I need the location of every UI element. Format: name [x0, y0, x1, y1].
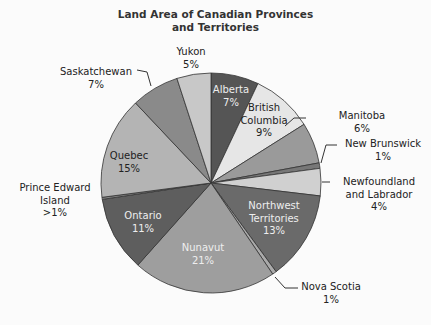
label-name-2: Island: [19, 195, 90, 208]
label-pct: 21%: [182, 255, 224, 268]
leader-saskatchewan: [137, 70, 151, 86]
leader-new-brunswick: [321, 145, 337, 163]
label-name: Northwest: [248, 200, 299, 213]
label-name: Quebec: [110, 150, 148, 163]
label-pct: 11%: [124, 223, 161, 236]
label-name: Prince Edward: [19, 182, 90, 195]
label-name: Manitoba: [339, 110, 385, 123]
label-pct: 9%: [240, 127, 287, 140]
label-prince-edward-island: Prince Edward Island >1%: [19, 182, 90, 220]
label-pct: 13%: [248, 225, 299, 238]
label-pct: 1%: [345, 151, 421, 164]
label-pct: 5%: [176, 59, 205, 72]
leader-nova-scotia: [275, 277, 298, 288]
label-name: Nunavut: [182, 242, 224, 255]
label-ontario: Ontario 11%: [124, 210, 161, 235]
label-name: Alberta: [213, 84, 249, 97]
label-yukon: Yukon 5%: [176, 46, 205, 71]
label-name-2: and Labrador: [343, 189, 415, 202]
label-name: New Brunswick: [345, 138, 421, 151]
label-pct: 7%: [60, 79, 132, 92]
label-northwest-territories: Northwest Territories 13%: [248, 200, 299, 238]
label-name: Newfoundland: [343, 176, 415, 189]
label-name: Yukon: [176, 46, 205, 59]
label-british-columbia: British Columbia 9%: [240, 102, 287, 140]
label-manitoba: Manitoba 6%: [339, 110, 385, 135]
label-pct: 1%: [301, 294, 361, 307]
label-nova-scotia: Nova Scotia 1%: [301, 281, 361, 306]
label-name-2: Territories: [248, 213, 299, 226]
label-name: British: [240, 102, 287, 115]
label-pct: 4%: [343, 201, 415, 214]
label-pct: >1%: [19, 207, 90, 220]
label-name-2: Columbia: [240, 115, 287, 128]
label-nunavut: Nunavut 21%: [182, 242, 224, 267]
label-name: Ontario: [124, 210, 161, 223]
label-saskatchewan: Saskatchewan 7%: [60, 66, 132, 91]
label-pct: 6%: [339, 123, 385, 136]
label-pct: 15%: [110, 163, 148, 176]
label-newfoundland: Newfoundland and Labrador 4%: [343, 176, 415, 214]
label-name: Saskatchewan: [60, 66, 132, 79]
label-name: Nova Scotia: [301, 281, 361, 294]
label-new-brunswick: New Brunswick 1%: [345, 138, 421, 163]
label-quebec: Quebec 15%: [110, 150, 148, 175]
